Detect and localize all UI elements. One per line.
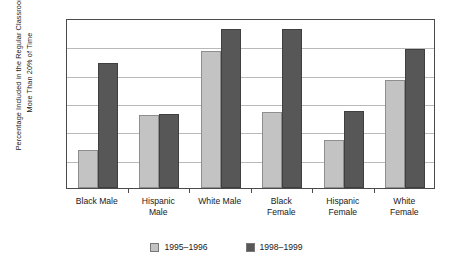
bar[interactable] (98, 63, 118, 188)
x-tick-mark (128, 189, 129, 193)
legend-label: 1995–1996 (164, 243, 207, 252)
legend-item[interactable]: 1995–1996 (150, 243, 207, 252)
legend-label: 1998–1999 (260, 243, 303, 252)
bar[interactable] (324, 140, 344, 188)
x-tick-label: White Female (367, 196, 441, 219)
legend-item[interactable]: 1998–1999 (246, 243, 303, 252)
plot-area (66, 19, 435, 189)
x-tick-mark (189, 189, 190, 193)
bar[interactable] (201, 51, 221, 188)
x-tick-mark (251, 189, 252, 193)
bar-group (190, 20, 252, 188)
y-axis-title: Percentage Included in the Regular Class… (14, 0, 35, 163)
bar[interactable] (405, 49, 425, 188)
bar[interactable] (221, 29, 241, 188)
bar-group (252, 20, 314, 188)
x-tick-mark (312, 189, 313, 193)
chart-figure: Percentage Included in the Regular Class… (0, 0, 453, 276)
chart-legend: 1995–19961998–1999 (0, 243, 453, 252)
bar-group (129, 20, 191, 188)
legend-swatch-icon (150, 243, 159, 252)
bar[interactable] (262, 112, 282, 188)
bar[interactable] (385, 80, 405, 188)
bar-group (375, 20, 437, 188)
bar[interactable] (282, 29, 302, 188)
bar[interactable] (139, 115, 159, 188)
bar[interactable] (159, 114, 179, 188)
bar[interactable] (344, 111, 364, 188)
bar[interactable] (78, 150, 98, 188)
bar-group (313, 20, 375, 188)
x-tick-mark (374, 189, 375, 193)
legend-swatch-icon (246, 243, 255, 252)
bar-group (67, 20, 129, 188)
